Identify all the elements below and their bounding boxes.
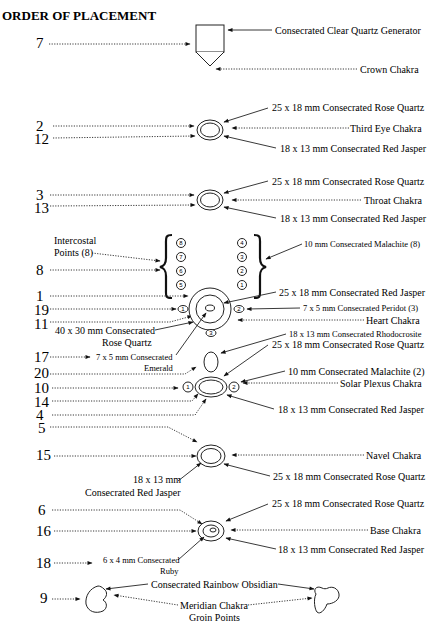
page-title: ORDER OF PLACEMENT — [2, 8, 156, 23]
step-number: 20 — [34, 365, 49, 381]
right-obsidian-stone — [314, 587, 339, 613]
label-solar-plexus-chakra: Solar Plexus Chakra — [340, 378, 422, 389]
step-number: 16 — [36, 523, 52, 539]
step-number: 11 — [34, 316, 48, 332]
step-number: 7 — [36, 35, 44, 51]
label-clear-quartz-generator: Consecrated Clear Quartz Generator — [275, 25, 421, 36]
label-red-jasper: 18 x 13 mm Consecrated Red Jasper — [278, 404, 425, 415]
red-jasper-stone — [201, 123, 220, 137]
step-number: 18 — [36, 555, 51, 571]
label-red-jasper: 18 x 13 mm Consecrated Red Jasper — [278, 544, 425, 555]
label-red-jasper: Consecrated Red Jasper — [85, 487, 181, 498]
third-eye-group: 2 12 25 x 18 mm Consecrated Rose Quartz … — [34, 102, 427, 154]
step-number: 5 — [38, 420, 46, 436]
label-rose-quartz: 25 x 18 mm Consecrated Rose Quartz — [272, 102, 425, 113]
label-intercostal-points: Points (8) — [54, 247, 93, 259]
label-third-eye-chakra: Third Eye Chakra — [350, 123, 422, 134]
malachite-left-column: 8 7 6 5 — [177, 239, 186, 290]
step-number: 12 — [34, 131, 49, 147]
step-number: 6 — [38, 502, 46, 518]
label-emerald: 7 x 5 mm Consecrated — [96, 352, 173, 362]
step-number: 8 — [36, 262, 44, 278]
label-rhodocrosite: 18 x 13 mm Consecrated Rhodocrosite — [289, 329, 422, 339]
ruby-stone — [210, 528, 216, 532]
label-rose-quartz-40x30: 40 x 30 mm Consecrated — [55, 325, 155, 336]
navel-group: 5 15 Navel Chakra 18 x 13 mm Consecrated… — [36, 420, 426, 498]
label-rose-quartz-word: Rose Quartz — [102, 337, 152, 348]
label-malachite-8: 10 mm Consecrated Malachite (8) — [304, 239, 420, 249]
label-ruby: 6 x 4 mm Consecrated — [103, 555, 180, 565]
red-jasper-stone — [199, 380, 223, 394]
malachite-right-column: 4 3 2 1 — [238, 239, 247, 290]
step-number: 17 — [34, 349, 50, 365]
label-groin-points: Groin Points — [189, 612, 240, 623]
label-emerald-word: Emerald — [144, 363, 174, 373]
groin-group: 9 Consecrated Rainbow Obsidian Meridian … — [40, 579, 339, 623]
label-throat-chakra: Throat Chakra — [364, 195, 423, 206]
throat-group: 3 13 25 x 18 mm Consecrated Rose Quartz … — [34, 176, 427, 224]
step-number: 9 — [40, 590, 48, 606]
label-rainbow-obsidian: Consecrated Rainbow Obsidian — [151, 579, 278, 590]
label-rose-quartz: 25 x 18 mm Consecrated Rose Quartz — [272, 498, 425, 509]
base-group: 6 16 18 25 x 18 mm Consecrated Rose Quar… — [36, 498, 425, 576]
label-meridian-chakra: Meridian Chakra — [180, 600, 249, 611]
red-jasper-stone — [201, 193, 220, 207]
label-navel-chakra: Navel Chakra — [366, 450, 422, 461]
red-jasper-stone — [201, 449, 221, 464]
label-rose-quartz: 25 x 18 mm Consecrated Rose Quartz — [272, 176, 425, 187]
label-malachite-2: 10 mm Consecrated Malachite (2) — [288, 366, 425, 378]
left-brace-icon — [160, 235, 172, 298]
label-red-jasper: 18 x 13 mm Consecrated Red Jasper — [280, 213, 427, 224]
heart-core-stone — [206, 305, 215, 311]
label-rose-quartz: 25 x 18 mm Consecrated Rose Quartz — [272, 339, 425, 350]
right-brace-icon — [254, 235, 266, 298]
crown-group: 7 Consecrated Clear Quartz Generator Cro… — [36, 25, 421, 75]
label-red-jasper: 25 x 18 mm Consecrated Red Jasper — [279, 287, 426, 298]
generator-point-icon — [196, 52, 224, 66]
label-red-jasper: 18 x 13 mm Consecrated Red Jasper — [280, 143, 427, 154]
left-obsidian-stone — [86, 586, 107, 612]
label-rose-quartz: 25 x 18 mm Consecrated Rose Quartz — [273, 471, 426, 482]
label-heart-chakra: Heart Chakra — [366, 315, 420, 326]
label-intercostal: Intercostal — [54, 235, 96, 246]
order-of-placement-diagram: ORDER OF PLACEMENT 7 Consecrated Clear Q… — [0, 0, 432, 633]
label-peridot: 7 x 5 mm Consecrated Peridot (3) — [303, 303, 418, 313]
step-number: 13 — [34, 200, 49, 216]
clear-quartz-generator-icon — [196, 25, 224, 52]
label-base-chakra: Base Chakra — [370, 525, 421, 536]
label-crown-chakra: Crown Chakra — [360, 64, 419, 75]
label-ruby-word: Ruby — [160, 566, 179, 576]
rhodocrosite-stone — [204, 352, 218, 372]
step-number: 15 — [36, 447, 51, 463]
label-red-jasper-size: 18 x 13 mm — [133, 474, 181, 485]
